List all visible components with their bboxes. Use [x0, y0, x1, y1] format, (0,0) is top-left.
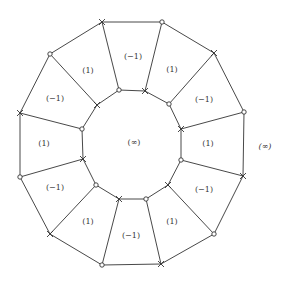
vertex-circle-icon	[18, 175, 22, 179]
spoke-edge	[20, 159, 83, 177]
outer-edge	[161, 234, 214, 264]
inner-edge	[146, 185, 168, 199]
spoke-edge	[146, 199, 161, 264]
vertex-cross-icon	[165, 182, 171, 188]
face-label: (1)	[166, 65, 177, 74]
face-label: (1)	[166, 217, 177, 226]
outer-edge	[243, 112, 244, 176]
vertex-circle-icon	[144, 197, 148, 201]
vertex-circle-icon	[167, 102, 171, 106]
face-label: (1)	[82, 66, 93, 75]
face-label: (1)	[38, 139, 49, 148]
inner-region-label: (∞)	[128, 138, 141, 147]
inner-edge	[168, 160, 181, 185]
vertex-circle-icon	[94, 183, 98, 187]
inner-edge	[119, 90, 145, 91]
annular-face-diagram: (−1)(1)(−1)(1)(−1)(1)(−1)(1)(−1)(1)(−1)(…	[0, 0, 288, 287]
outer-edge	[162, 22, 214, 53]
vertex-cross-icon	[47, 231, 53, 237]
face-label: (−1)	[122, 231, 140, 240]
face-label: (1)	[202, 139, 213, 148]
spoke-edge	[50, 185, 96, 234]
outer-edge	[214, 176, 243, 234]
spoke-edge	[181, 160, 243, 176]
face-label: (1)	[82, 217, 93, 226]
spoke-edge	[181, 112, 244, 129]
inner-edge	[96, 185, 119, 199]
vertex-circle-icon	[242, 110, 246, 114]
inner-edge	[83, 159, 96, 185]
vertex-cross-icon	[94, 102, 100, 108]
outer-region-label: (∞)	[259, 142, 272, 151]
inner-edge	[82, 129, 83, 159]
inner-edge	[145, 91, 169, 104]
inner-edge	[97, 90, 119, 105]
inner-edge	[169, 104, 181, 129]
outer-edge	[102, 264, 161, 265]
face-label: (−1)	[195, 95, 213, 104]
outer-edge	[50, 22, 102, 54]
face-label: (−1)	[124, 52, 142, 61]
outer-edge	[20, 54, 50, 113]
face-label: (−1)	[195, 185, 213, 194]
spoke-edge	[145, 22, 162, 91]
spoke-edge	[102, 199, 119, 265]
face-label: (−1)	[46, 183, 64, 192]
face-labels: (−1)(1)(−1)(1)(−1)(1)(−1)(1)(−1)(1)(−1)(…	[38, 52, 213, 240]
vertex-circle-icon	[212, 232, 216, 236]
vertex-cross-icon	[211, 50, 217, 56]
vertex-circle-icon	[48, 52, 52, 56]
vertex-circle-icon	[179, 158, 183, 162]
outer-edge	[214, 53, 244, 112]
vertex-circle-icon	[160, 20, 164, 24]
inner-edge	[82, 105, 97, 129]
vertex-circle-icon	[100, 263, 104, 267]
face-label: (−1)	[46, 94, 64, 103]
spoke-edge	[102, 22, 119, 90]
outer-edge	[50, 234, 102, 265]
spoke-edge	[20, 113, 82, 129]
vertex-circle-icon	[80, 127, 84, 131]
vertex-circle-icon	[117, 88, 121, 92]
